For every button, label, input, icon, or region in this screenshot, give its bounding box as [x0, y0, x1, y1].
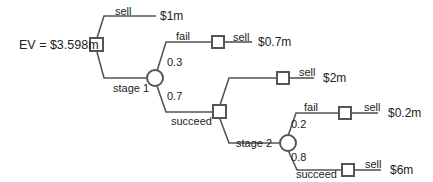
succeed-2-probability: 0.8 — [291, 151, 306, 163]
fail-1-sell-label: sell — [233, 31, 250, 43]
expected-value-label: EV = $3.598m — [19, 39, 99, 51]
decision-node-2 — [213, 105, 226, 118]
decision-tree-lines — [0, 0, 433, 182]
fail-1-probability: 0.3 — [167, 56, 182, 68]
fail-2-outcome: $0.2m — [388, 107, 421, 119]
decision-node-sell-2m — [277, 72, 289, 84]
succeed-1-probability: 0.7 — [167, 90, 182, 102]
fail-1-outcome: $0.7m — [258, 36, 291, 48]
decision-2-sell-outcome: $2m — [323, 72, 346, 84]
decision-node-fail-2 — [339, 107, 351, 119]
fail-2-probability: 0.2 — [291, 118, 306, 130]
decision-2-sell-label: sell — [299, 66, 316, 78]
succeed-2-sell-label: sell — [365, 158, 382, 170]
chance-node-stage-2 — [280, 135, 296, 151]
decision-node-succeed-2 — [342, 164, 354, 176]
succeed-2-outcome: $6m — [390, 164, 413, 176]
stage-2-label: stage 2 — [236, 137, 272, 149]
fail-1-label: fail — [176, 30, 190, 42]
decision-node-fail-1 — [212, 36, 224, 48]
fail-2-sell-label: sell — [364, 101, 381, 113]
stage-1-label: stage 1 — [113, 82, 149, 94]
succeed-2-label: succeed — [296, 168, 337, 180]
root-sell-outcome: $1m — [160, 10, 183, 22]
chance-node-stage-1 — [147, 70, 163, 86]
root-sell-label: sell — [115, 5, 132, 17]
succeed-1-label: succeed — [171, 115, 212, 127]
fail-2-label: fail — [304, 101, 318, 113]
